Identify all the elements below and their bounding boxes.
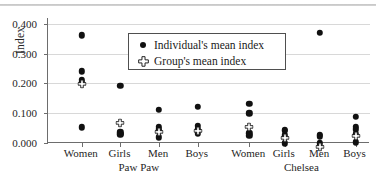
x-tick-label-women-pawpaw: Women bbox=[64, 147, 98, 159]
gridline bbox=[48, 83, 370, 84]
data-point-group-mean bbox=[316, 137, 325, 146]
data-point-group-mean bbox=[116, 114, 125, 123]
legend-item-individual: Individual's mean index bbox=[137, 37, 279, 53]
y-tick-mark bbox=[44, 113, 48, 114]
data-point-individual bbox=[195, 103, 201, 109]
data-point-group-mean bbox=[155, 122, 164, 131]
filled-circle-icon bbox=[137, 39, 149, 51]
x-tick-label-boys-pawpaw: Boys bbox=[185, 147, 208, 159]
y-tick-mark bbox=[44, 83, 48, 84]
chart-legend: Individual's mean index Group's mean ind… bbox=[128, 33, 286, 70]
group-label-chelsea: Chelsea bbox=[284, 161, 319, 173]
data-point-individual bbox=[117, 131, 123, 137]
data-point-group-mean bbox=[245, 117, 254, 126]
gridline bbox=[48, 24, 370, 25]
x-tick-label-girls-pawpaw: Girls bbox=[108, 147, 130, 159]
group-label-paw-paw: Paw Paw bbox=[118, 161, 159, 173]
y-tick-label: 0.300 bbox=[12, 49, 37, 60]
x-tick-label-girls-chelsea: Girls bbox=[273, 147, 295, 159]
data-point-individual bbox=[156, 106, 162, 112]
data-point-individual bbox=[352, 114, 358, 120]
open-cross-icon bbox=[137, 55, 149, 67]
x-tick-label-men-pawpaw: Men bbox=[148, 147, 168, 159]
data-point-group-mean bbox=[280, 129, 289, 138]
data-point-individual bbox=[246, 132, 252, 138]
data-point-group-mean bbox=[351, 127, 360, 136]
data-point-individual bbox=[246, 110, 252, 116]
data-point-group-mean bbox=[77, 75, 86, 84]
y-tick-mark bbox=[44, 54, 48, 55]
y-tick-label: 0.200 bbox=[12, 78, 37, 89]
x-tick-label-boys-chelsea: Boys bbox=[343, 147, 366, 159]
data-point-individual bbox=[117, 82, 123, 88]
data-point-individual bbox=[79, 68, 85, 74]
legend-label-group: Group's mean index bbox=[154, 55, 246, 67]
y-tick-mark bbox=[44, 143, 48, 144]
data-point-individual bbox=[79, 124, 85, 130]
x-tick-label-men-chelsea: Men bbox=[309, 147, 329, 159]
y-tick-label: 0.400 bbox=[12, 19, 37, 30]
scatter-chart-figure: Index 0.0000.1000.2000.3000.400 WomenGir… bbox=[0, 0, 376, 178]
y-tick-label: 0.100 bbox=[12, 108, 37, 119]
data-point-individual bbox=[79, 32, 85, 38]
y-tick-label: 0.000 bbox=[12, 138, 37, 149]
gridline bbox=[48, 113, 370, 114]
data-point-individual bbox=[317, 30, 323, 36]
x-tick-label-women-chelsea: Women bbox=[231, 147, 265, 159]
data-point-individual bbox=[246, 101, 252, 107]
y-tick-mark bbox=[44, 24, 48, 25]
legend-item-group: Group's mean index bbox=[137, 53, 279, 69]
data-point-group-mean bbox=[193, 122, 202, 131]
legend-label-individual: Individual's mean index bbox=[154, 39, 264, 51]
